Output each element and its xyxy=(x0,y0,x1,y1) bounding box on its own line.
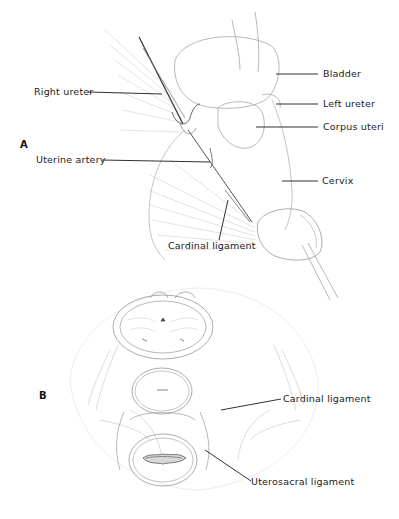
label-cervix: Cervix xyxy=(322,175,353,186)
fibers-cardinal xyxy=(148,160,258,250)
panel-a-leaders xyxy=(88,74,318,240)
panel-a-drawing xyxy=(105,12,338,300)
label-cardinal-ligament-b: Cardinal ligament xyxy=(283,393,371,404)
panel-b-drawing xyxy=(70,288,318,490)
label-bladder: Bladder xyxy=(323,68,361,79)
panel-a-letter: A xyxy=(20,139,28,150)
label-cardinal-ligament-a: Cardinal ligament xyxy=(168,240,256,251)
label-uterine-artery: Uterine artery xyxy=(36,154,106,165)
label-uterosacral-ligament: Uterosacral ligament xyxy=(251,476,354,487)
label-right-ureter: Right ureter xyxy=(34,86,93,97)
label-left-ureter: Left ureter xyxy=(323,98,375,109)
label-corpus-uteri: Corpus uteri xyxy=(323,121,384,132)
panel-b-letter: B xyxy=(39,390,47,401)
shading xyxy=(88,345,304,460)
